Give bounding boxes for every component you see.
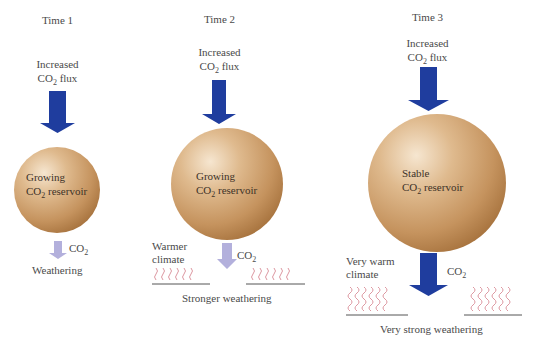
weathering-label: Stronger weathering [182,292,272,305]
co2-text: CO [237,249,252,261]
reservoir-label-line1: Stable [402,167,430,180]
climate-label-line1: Very warm [346,255,395,268]
heat-waves-left-icon [348,287,387,311]
output-arrow-icon [49,241,67,259]
output-co2-label: CO2 [69,242,88,255]
co2-text: CO [38,72,53,84]
climate-label-line2: climate [346,268,378,281]
output-co2-label: CO2 [447,265,466,278]
reservoir-text: reservoir [215,184,257,196]
reservoir-label-line2: CO2 reservoir [196,184,257,197]
reservoir-label-line1: Growing [196,170,235,183]
weathering-label: Weathering [32,264,82,277]
co2-text: CO [402,181,417,193]
climate-label-line1: Warmer [152,240,187,253]
reservoir-label-line1: Growing [26,171,65,184]
co2-text: CO [26,185,41,197]
input-label-line1: Increased [390,37,465,50]
input-arrow-icon [408,67,449,111]
input-label-line2: CO2 flux [20,72,95,85]
input-arrow-icon [202,80,236,124]
reservoir-label-line2: CO2 reservoir [402,181,463,194]
co2-text: CO [200,60,215,72]
output-arrow-icon [409,253,448,296]
flux-text: flux [219,60,239,72]
input-label-line2: CO2 flux [390,51,465,64]
time-label: Time 2 [182,13,257,26]
co2-text: CO [447,265,462,277]
input-label-line1: Increased [20,58,95,71]
input-label-line1: Increased [182,46,257,59]
output-co2-label: CO2 [237,249,256,262]
input-arrow-icon [40,91,75,133]
co2-text: CO [408,51,423,63]
reservoir-label-line2: CO2 reservoir [26,185,87,198]
subscript: 2 [462,271,466,280]
time-label: Time 1 [20,14,95,27]
output-arrow-icon [217,243,237,269]
reservoir-text: reservoir [421,181,463,193]
climate-label-line2: climate [152,253,184,266]
reservoir-text: reservoir [45,185,87,197]
weathering-label: Very strong weathering [380,323,483,336]
subscript: 2 [252,255,256,264]
heat-waves-right-icon [252,268,290,280]
co2-text: CO [196,184,211,196]
heat-waves-left-icon [155,268,193,280]
flux-text: flux [427,51,447,63]
heat-waves-right-icon [471,287,510,311]
input-label-line2: CO2 flux [182,60,257,73]
flux-text: flux [57,72,77,84]
subscript: 2 [84,248,88,257]
time-label: Time 3 [390,11,465,24]
co2-text: CO [69,242,84,254]
